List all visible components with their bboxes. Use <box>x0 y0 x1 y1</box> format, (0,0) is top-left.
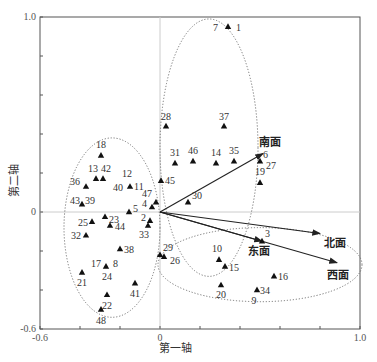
triangle-marker-icon <box>185 199 191 205</box>
point-label: 4 <box>142 198 147 209</box>
point-label: 39 <box>85 195 95 206</box>
triangle-marker-icon <box>102 213 108 219</box>
point-label: 1 <box>236 22 241 33</box>
triangle-marker-icon <box>218 282 224 288</box>
triangle-marker-icon <box>149 204 155 210</box>
point-label: 40 <box>113 182 123 193</box>
point-label: 45 <box>165 175 175 186</box>
triangle-marker-icon <box>222 263 228 269</box>
point-label: 12 <box>122 168 132 179</box>
point-label: 14 <box>211 147 221 158</box>
point-label: 6 <box>263 149 268 160</box>
point-label: 2 <box>141 212 146 223</box>
point-label: 15 <box>229 262 239 273</box>
point-label: 35 <box>229 145 239 156</box>
triangle-marker-icon <box>79 269 85 275</box>
plot-area: -0.601.01.00-0.6 南面北面东面西面 71283731461435… <box>0 0 377 362</box>
vector-label: 东面 <box>248 244 270 257</box>
point-label: 48 <box>96 315 106 326</box>
triangle-marker-icon <box>158 177 164 183</box>
vector-label: 南面 <box>259 135 281 148</box>
triangle-marker-icon <box>147 217 153 223</box>
y-axis-title: 第二轴 <box>7 164 20 197</box>
point-label: 31 <box>170 147 180 158</box>
triangle-marker-icon <box>221 123 227 129</box>
point-label: 36 <box>70 176 80 187</box>
point-label: 7 <box>213 22 218 33</box>
point-label: 10 <box>212 243 222 254</box>
triangle-marker-icon <box>213 160 219 166</box>
triangle-marker-icon <box>103 263 109 269</box>
point-label: 13 <box>88 163 98 174</box>
point-label: 42 <box>101 163 111 174</box>
sample-points: 7128373146143562719453018134236124011474… <box>70 22 288 326</box>
y-tick-label: 1.0 <box>24 11 37 22</box>
triangle-marker-icon <box>257 179 263 185</box>
point-label: 16 <box>278 271 288 282</box>
vector-arrow <box>160 212 320 233</box>
triangle-marker-icon <box>153 199 159 205</box>
y-tick-label: -0.6 <box>20 323 36 334</box>
point-label: 28 <box>161 111 171 122</box>
point-label: 37 <box>219 111 229 122</box>
point-label: 22 <box>102 300 112 311</box>
triangle-marker-icon <box>216 256 222 262</box>
point-label: 46 <box>188 145 198 156</box>
point-label: 20 <box>216 289 226 300</box>
triangle-marker-icon <box>127 183 133 189</box>
point-label: 8 <box>113 258 118 269</box>
point-label: 18 <box>96 139 106 150</box>
triangle-marker-icon <box>98 152 104 158</box>
triangle-marker-icon <box>172 160 178 166</box>
point-label: 44 <box>115 221 125 232</box>
point-label: 9 <box>252 295 257 306</box>
y-tick-label: 0 <box>31 206 36 217</box>
environment-vectors: 南面北面东面西面 <box>160 135 349 281</box>
triangle-marker-icon <box>145 222 151 228</box>
point-label: 33 <box>139 229 149 240</box>
point-label: 29 <box>163 242 173 253</box>
triangle-marker-icon <box>163 123 169 129</box>
x-axis-title: 第一轴 <box>159 341 192 354</box>
point-label: 30 <box>192 190 202 201</box>
point-label: 43 <box>70 195 80 206</box>
point-label: 26 <box>170 255 180 266</box>
triangle-marker-icon <box>93 175 99 181</box>
triangle-marker-icon <box>132 280 138 286</box>
vector-label: 西面 <box>327 269 349 281</box>
point-label: 5 <box>133 203 138 214</box>
point-label: 32 <box>71 230 81 241</box>
point-label: 21 <box>77 277 87 288</box>
point-label: 24 <box>102 271 112 282</box>
point-label: 25 <box>78 217 88 228</box>
point-label: 27 <box>266 160 276 171</box>
triangle-marker-icon <box>126 209 132 215</box>
triangle-marker-icon <box>271 273 277 279</box>
point-label: 41 <box>130 288 140 299</box>
triangle-marker-icon <box>225 23 231 29</box>
triangle-marker-icon <box>117 246 123 252</box>
point-label: 38 <box>124 244 134 255</box>
biplot-chart: -0.601.01.00-0.6 南面北面东面西面 71283731461435… <box>0 0 377 362</box>
vector-label: 北面 <box>324 236 346 249</box>
point-label: 17 <box>91 258 101 269</box>
triangle-marker-icon <box>83 232 89 238</box>
triangle-marker-icon <box>104 291 110 297</box>
point-label: 34 <box>260 285 270 296</box>
point-label: 19 <box>255 166 265 177</box>
triangle-marker-icon <box>83 183 89 189</box>
triangle-marker-icon <box>89 218 95 224</box>
triangle-marker-icon <box>190 158 196 164</box>
point-label: 3 <box>265 228 270 239</box>
x-tick-label: 1.0 <box>354 332 367 343</box>
triangle-marker-icon <box>100 175 106 181</box>
triangle-marker-icon <box>231 158 237 164</box>
